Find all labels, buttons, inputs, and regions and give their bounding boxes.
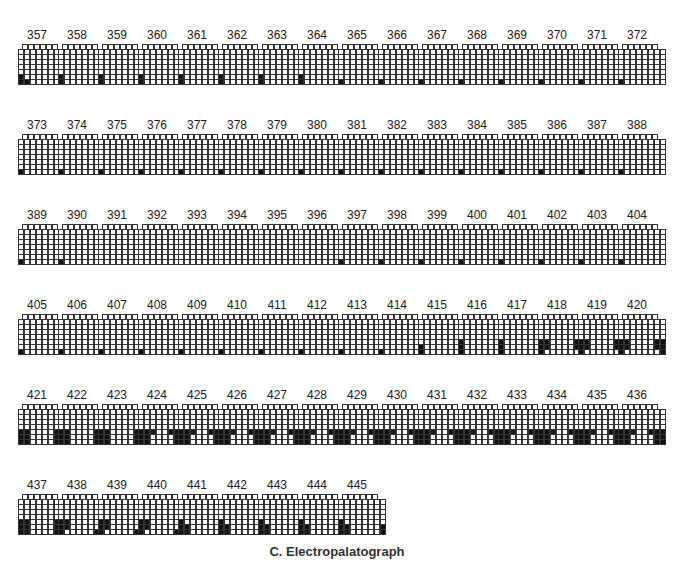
frame-number: 435 [578,388,616,402]
frame-number: 414 [378,298,416,312]
frame-number: 411 [258,298,296,312]
electrode-grid [618,44,666,84]
electrode-cell [660,349,666,355]
frame-number: 371 [578,28,616,42]
frame-number: 434 [538,388,576,402]
frame-number: 360 [138,28,176,42]
frame-number: 382 [378,118,416,132]
palatogram-sequence: 3573583593603613623633643653663673683693… [0,0,674,540]
frame-number: 372 [618,28,656,42]
electrode-cell [660,169,666,175]
frame-number: 428 [298,388,336,402]
frame-number: 381 [338,118,376,132]
frame-number: 404 [618,208,656,222]
frame-number: 368 [458,28,496,42]
frame-number: 394 [218,208,256,222]
frame-number: 391 [98,208,136,222]
frame-number: 443 [258,478,296,492]
frame-number: 365 [338,28,376,42]
figure-caption: C. Electropalatograph [0,544,674,559]
frame-number: 379 [258,118,296,132]
frame-number: 416 [458,298,496,312]
frame-number: 392 [138,208,176,222]
frame-number: 427 [258,388,296,402]
frame-number: 362 [218,28,256,42]
frame-number: 393 [178,208,216,222]
frame-number: 424 [138,388,176,402]
frame-number: 429 [338,388,376,402]
frame-number: 400 [458,208,496,222]
frame-number: 433 [498,388,536,402]
electrode-grid [618,404,666,444]
frame-number: 358 [58,28,96,42]
frame-number: 364 [298,28,336,42]
frame-number: 430 [378,388,416,402]
frame-number: 425 [178,388,216,402]
frame-number: 397 [338,208,376,222]
frame-number: 444 [298,478,336,492]
frame-number: 388 [618,118,656,132]
electrode-cell [660,259,666,265]
frame-number: 420 [618,298,656,312]
frame-number: 402 [538,208,576,222]
frame-number: 403 [578,208,616,222]
frame-number: 366 [378,28,416,42]
frame-number: 389 [18,208,56,222]
frame-number: 412 [298,298,336,312]
frame-number: 369 [498,28,536,42]
frame-number: 421 [18,388,56,402]
frame-number: 442 [218,478,256,492]
frame-number: 357 [18,28,56,42]
frame-number: 437 [18,478,56,492]
frame-number: 370 [538,28,576,42]
frame-number: 373 [18,118,56,132]
frame-number: 445 [338,478,376,492]
frame-number: 374 [58,118,96,132]
frame-number: 375 [98,118,136,132]
frame-number: 432 [458,388,496,402]
frame-number: 438 [58,478,96,492]
frame-number: 441 [178,478,216,492]
frame-number: 395 [258,208,296,222]
frame-number: 386 [538,118,576,132]
frame-number: 423 [98,388,136,402]
frame-number: 407 [98,298,136,312]
frame-number: 361 [178,28,216,42]
frame-number: 398 [378,208,416,222]
electrode-cell [660,79,666,85]
frame-number: 415 [418,298,456,312]
frame-number: 378 [218,118,256,132]
frame-number: 422 [58,388,96,402]
frame-number: 380 [298,118,336,132]
frame-number: 413 [338,298,376,312]
frame-number: 390 [58,208,96,222]
frame-number: 405 [18,298,56,312]
electrode-grid [618,314,666,354]
frame-number: 440 [138,478,176,492]
frame-number: 384 [458,118,496,132]
frame-number: 408 [138,298,176,312]
electrode-grid [618,224,666,264]
frame-number: 385 [498,118,536,132]
frame-number: 436 [618,388,656,402]
frame-number: 418 [538,298,576,312]
frame-number: 376 [138,118,176,132]
frame-number: 359 [98,28,136,42]
frame-number: 439 [98,478,136,492]
frame-number: 401 [498,208,536,222]
electrode-grid [338,494,386,534]
frame-number: 409 [178,298,216,312]
frame-number: 431 [418,388,456,402]
frame-number: 399 [418,208,456,222]
frame-number: 417 [498,298,536,312]
frame-number: 377 [178,118,216,132]
frame-number: 419 [578,298,616,312]
electrode-cell [660,439,666,445]
frame-number: 363 [258,28,296,42]
frame-number: 410 [218,298,256,312]
electrode-cell [380,529,386,535]
frame-number: 406 [58,298,96,312]
frame-number: 383 [418,118,456,132]
frame-number: 396 [298,208,336,222]
electrode-grid [618,134,666,174]
